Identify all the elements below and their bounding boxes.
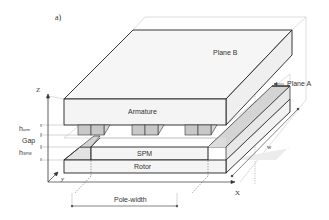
y-axis-label: y xyxy=(61,176,64,183)
figure-label: a) xyxy=(55,14,61,22)
pole-width-label: Pole-width xyxy=(114,196,147,203)
linear-machine-diagram xyxy=(0,0,329,220)
armature-teeth xyxy=(78,125,217,135)
gap-label: Gap xyxy=(22,137,35,144)
spm-left-slant xyxy=(80,136,100,147)
z-axis-label: Z xyxy=(36,87,40,94)
spm-label: SPM xyxy=(137,150,152,157)
armature-label: Armature xyxy=(128,108,157,115)
h-spm-label: hSPM xyxy=(19,149,32,156)
h-arm-label: harm xyxy=(19,125,30,132)
plane-a-label: Plane A xyxy=(287,80,311,87)
rotor-label: Rotor xyxy=(134,163,151,170)
x-axis-label: X xyxy=(235,190,240,197)
width-label: w xyxy=(267,144,271,150)
plane-b-label: Plane B xyxy=(213,49,238,56)
